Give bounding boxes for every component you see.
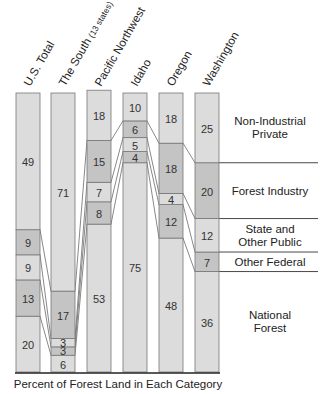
segment-value: 53 xyxy=(93,293,105,305)
bar-idaho: 7545610 xyxy=(123,93,147,372)
category-label: U.S. Total xyxy=(21,39,56,88)
segment-value: 4 xyxy=(168,194,174,206)
segment-value: 9 xyxy=(25,237,31,249)
segment-value: 36 xyxy=(201,317,213,329)
segment-value: 48 xyxy=(165,300,177,312)
segment-value: 8 xyxy=(96,208,102,220)
segment-value: 49 xyxy=(22,156,34,168)
segment-value: 71 xyxy=(57,187,69,199)
legend-label: Private xyxy=(252,128,288,140)
segment-value: 13 xyxy=(22,293,34,305)
bar-the-south: 6331771 xyxy=(51,93,75,372)
bar-pacific-northwest: 53871518 xyxy=(87,90,111,372)
category-label: Washington xyxy=(200,30,241,88)
segment-value: 18 xyxy=(93,110,105,122)
category-label: Idaho xyxy=(128,57,153,88)
segment-value: 4 xyxy=(132,152,138,164)
segment-value: 20 xyxy=(201,186,213,198)
legend: NationalForestOther FederalState andOthe… xyxy=(232,115,309,334)
segment-value: 6 xyxy=(132,124,138,136)
segment-value: 25 xyxy=(201,123,213,135)
segment-value: 6 xyxy=(60,359,66,371)
segment-value: 7 xyxy=(96,187,102,199)
segment-value: 10 xyxy=(129,102,141,114)
legend-label: Other Public xyxy=(238,236,302,248)
segment-value: 18 xyxy=(165,113,177,125)
segment-value: 9 xyxy=(25,262,31,274)
segment-value: 5 xyxy=(132,140,138,152)
legend-label: National xyxy=(249,309,291,321)
segment-value: 18 xyxy=(165,163,177,175)
axis-title: Percent of Forest Land in Each Category xyxy=(14,378,223,390)
segment-value: 75 xyxy=(129,262,141,274)
segment-value: 15 xyxy=(93,156,105,168)
bars-group: 2013994963317715387151875456104812418183… xyxy=(16,90,219,372)
legend-label: Forest Industry xyxy=(232,185,309,197)
bar-u-s-total: 20139949 xyxy=(16,93,40,372)
segment-value: 17 xyxy=(57,310,69,322)
bar-oregon: 481241818 xyxy=(159,93,183,372)
legend-label: Other Federal xyxy=(235,256,306,268)
segment-value: 12 xyxy=(201,230,213,242)
segment-value: 7 xyxy=(204,257,210,269)
bar-washington: 367122025 xyxy=(195,93,219,372)
stacked-bar-chart: 2013994963317715387151875456104812418183… xyxy=(0,0,332,394)
segment-value: 20 xyxy=(22,339,34,351)
category-label: Oregon xyxy=(164,49,194,88)
legend-label: State and xyxy=(245,223,294,235)
legend-label: Forest xyxy=(254,322,287,334)
segment-value: 12 xyxy=(165,216,177,228)
category-labels: U.S. TotalThe South(13 states)Pacific No… xyxy=(21,0,241,88)
legend-label: Non-Industrial xyxy=(234,115,306,127)
